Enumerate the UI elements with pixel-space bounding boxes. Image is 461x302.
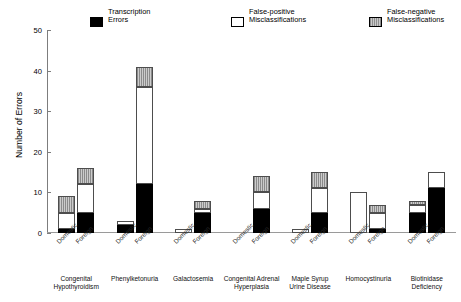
bar-segment-false-positive — [253, 192, 270, 208]
legend-label-false-negative: False-negative Misclassifications — [387, 8, 444, 25]
legend-swatch-gray-icon — [369, 17, 382, 27]
bar-foreign — [77, 168, 94, 233]
bar-segment-false-positive — [194, 209, 211, 213]
bar-segment-false-positive — [428, 172, 445, 188]
legend-label-false-positive: False-positive Misclassifications — [249, 8, 306, 25]
y-axis-tick-label: 10 — [8, 188, 42, 197]
legend-label-line2: Misclassifications — [387, 15, 444, 24]
bar-segment-false-negative — [136, 67, 153, 87]
y-axis-title: Number of Errors — [14, 70, 24, 180]
legend-item-transcription-errors: Transcription Errors — [90, 8, 150, 27]
bar-segment-false-negative — [369, 205, 386, 213]
legend-swatch-white-icon — [231, 17, 244, 27]
legend-label-line2: Errors — [108, 15, 128, 24]
group-label: Biotinidase Deficiency — [393, 275, 461, 291]
bar-foreign — [428, 172, 445, 233]
legend-label-transcription-errors: Transcription Errors — [108, 8, 150, 25]
plot-area — [47, 30, 456, 233]
y-axis-tick-label: 40 — [8, 67, 42, 76]
bar-segment-false-positive — [409, 205, 426, 213]
y-axis-tick — [47, 233, 51, 234]
legend-label-line2: Misclassifications — [249, 15, 306, 24]
y-axis-tick-label: 50 — [8, 26, 42, 35]
bar-segment-false-negative — [409, 201, 426, 205]
bar-segment-false-positive — [136, 87, 153, 184]
bar-segment-false-negative — [77, 168, 94, 184]
bar-segment-false-negative — [194, 201, 211, 209]
bar-segment-false-negative — [253, 176, 270, 192]
y-axis-tick-label: 30 — [8, 107, 42, 116]
chart-figure: Transcription Errors False-positive Misc… — [0, 0, 461, 302]
bar-segment-false-positive — [77, 184, 94, 212]
legend-swatch-black-icon — [90, 17, 103, 27]
y-axis-tick-label: 20 — [8, 148, 42, 157]
y-axis-tick-label: 0 — [8, 229, 42, 238]
legend-item-false-negative: False-negative Misclassifications — [369, 8, 444, 27]
bar-segment-false-positive — [311, 188, 328, 212]
bar-foreign — [136, 67, 153, 233]
bar-foreign — [253, 176, 270, 233]
bar-foreign — [311, 172, 328, 233]
bar-segment-false-negative — [311, 172, 328, 188]
legend-item-false-positive: False-positive Misclassifications — [231, 8, 306, 27]
bar-segment-false-negative — [58, 196, 75, 212]
